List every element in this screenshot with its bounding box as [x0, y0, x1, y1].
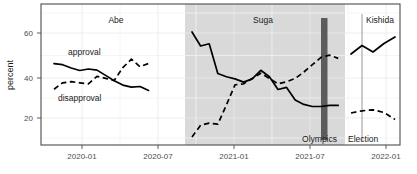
x-axis-ticks	[82, 145, 386, 149]
x-tick-label-2022-01: 2022-01	[371, 152, 401, 161]
event-label-olympics: Olympics	[302, 134, 337, 144]
chart-svg: 60 40 20 percent 2020-01 2020-07 2021-01…	[0, 0, 417, 174]
x-tick-label-2021-07: 2021-07	[295, 152, 325, 161]
y-tick-label-40: 40	[24, 74, 33, 83]
x-tick-label-2021-01: 2021-01	[219, 152, 249, 161]
era-label-abe: Abe	[108, 15, 123, 25]
series-label-approval: approval	[68, 47, 101, 57]
y-axis-title: percent	[5, 59, 15, 90]
event-label-election: Election	[348, 134, 379, 144]
olympics-event-bar	[321, 18, 328, 140]
series-label-disapproval: disapproval	[58, 93, 102, 103]
y-tick-label-60: 60	[24, 29, 33, 38]
x-tick-label-2020-01: 2020-01	[67, 152, 97, 161]
y-axis-ticks	[37, 33, 41, 118]
era-label-suga: Suga	[253, 15, 273, 25]
chart-figure: 60 40 20 percent 2020-01 2020-07 2021-01…	[0, 0, 417, 174]
era-label-kishida: Kishida	[366, 15, 394, 25]
y-tick-label-20: 20	[24, 114, 33, 123]
x-tick-label-2020-07: 2020-07	[143, 152, 173, 161]
